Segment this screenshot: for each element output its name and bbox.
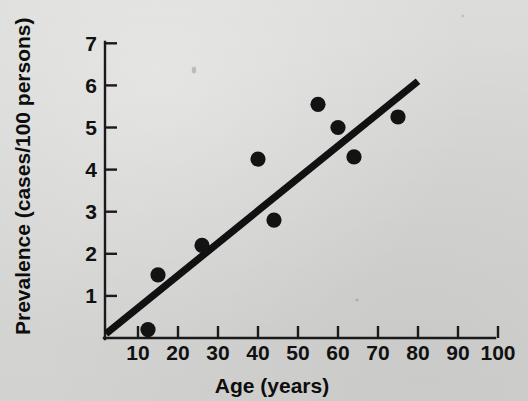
x-tick-label: 20 — [166, 341, 189, 364]
y-tick-label: 1 — [85, 284, 97, 307]
data-point — [266, 213, 281, 228]
data-point — [390, 109, 405, 124]
x-axis-ticks: 102030405060708090100 — [126, 326, 515, 364]
y-axis-title: Prevalence (cases/100 persons) — [11, 17, 34, 335]
y-tick-label: 3 — [85, 200, 97, 223]
y-tick-label: 6 — [85, 74, 97, 97]
scatter-plot-canvas: Prevalence (cases/100 persons) Age (year… — [0, 0, 528, 401]
x-tick-label: 40 — [246, 341, 269, 364]
data-point-group — [140, 97, 405, 337]
x-tick-label: 80 — [406, 341, 429, 364]
x-axis-title: Age (years) — [215, 374, 329, 397]
data-point — [310, 97, 325, 112]
x-tick-label: 70 — [366, 341, 389, 364]
scan-speck-icon — [355, 298, 358, 301]
y-tick-label: 4 — [85, 158, 97, 181]
x-tick-label: 90 — [446, 341, 469, 364]
data-point — [194, 238, 209, 253]
x-tick-label: 30 — [206, 341, 229, 364]
y-tick-label: 5 — [85, 116, 97, 139]
y-tick-label: 2 — [85, 242, 97, 265]
scan-speck-icon — [192, 66, 196, 73]
scan-speck-icon — [462, 15, 465, 18]
y-tick-label: 7 — [85, 32, 97, 55]
data-point — [330, 120, 345, 135]
x-tick-label: 10 — [126, 341, 149, 364]
x-tick-label: 50 — [286, 341, 309, 364]
data-point — [250, 151, 265, 166]
data-point — [150, 267, 165, 282]
trend-line — [106, 81, 418, 334]
data-point — [346, 149, 361, 164]
data-point — [140, 322, 155, 337]
chart-figure: Prevalence (cases/100 persons) Age (year… — [0, 0, 528, 401]
y-axis-ticks: 1234567 — [85, 32, 117, 308]
x-tick-label: 60 — [326, 341, 349, 364]
x-tick-label: 100 — [480, 341, 515, 364]
trend-line-group — [106, 81, 418, 334]
